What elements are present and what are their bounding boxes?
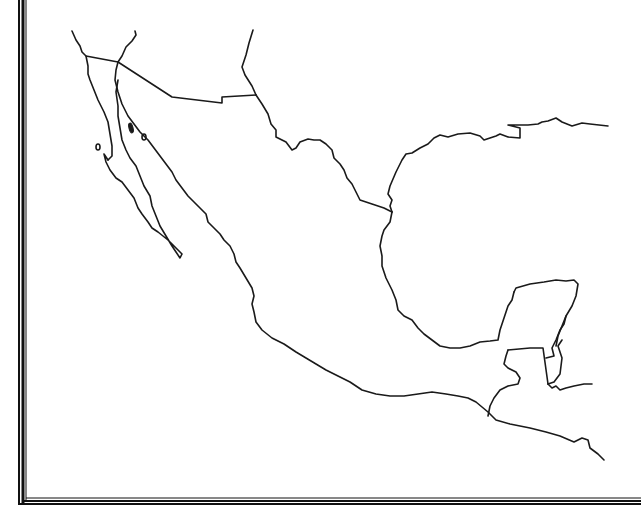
map-svg [0,0,641,505]
map-frame-border [19,0,641,505]
belize-border [508,340,592,390]
pacific-coastline [115,62,604,460]
guatemala-border [488,350,520,416]
map-container [0,0,641,505]
baja-california-peninsula [86,56,182,258]
yucatan-peninsula [514,280,578,358]
us-mexico-border [72,30,256,103]
gulf-of-mexico-coastline [256,95,608,348]
